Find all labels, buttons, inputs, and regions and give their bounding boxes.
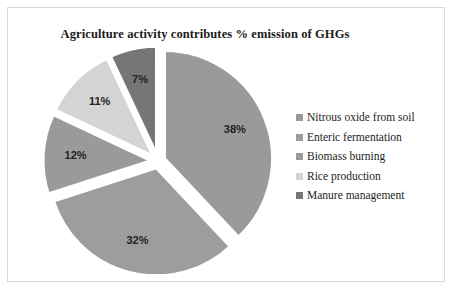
legend-item-label: Biomass burning: [307, 151, 385, 163]
chart-legend: Nitrous oxide from soilEnteric fermentat…: [296, 108, 448, 206]
legend-item[interactable]: Rice production: [296, 167, 448, 187]
legend-item-label: Rice production: [307, 171, 381, 183]
legend-color-swatch-icon: [296, 134, 303, 141]
legend-color-swatch-icon: [296, 192, 303, 199]
pie-chart-plot-area: 38%32%12%11%7%: [32, 48, 284, 274]
legend-item-label: Enteric fermentation: [307, 132, 402, 144]
legend-item[interactable]: Biomass burning: [296, 147, 448, 167]
pie-data-label: 11%: [89, 95, 111, 107]
legend-item[interactable]: Nitrous oxide from soil: [296, 108, 448, 128]
pie-slice-group: [43, 48, 272, 274]
pie-data-label: 32%: [126, 234, 148, 246]
pie-data-label: 12%: [65, 149, 87, 161]
legend-color-swatch-icon: [296, 153, 303, 160]
legend-item-label: Nitrous oxide from soil: [307, 112, 415, 124]
chart-title: Agriculture activity contributes % emiss…: [40, 27, 370, 42]
legend-color-swatch-icon: [296, 114, 303, 121]
legend-color-swatch-icon: [296, 173, 303, 180]
legend-item[interactable]: Enteric fermentation: [296, 128, 448, 148]
pie-data-label: 7%: [132, 73, 148, 85]
pie-data-label: 38%: [224, 123, 246, 135]
legend-item[interactable]: Manure management: [296, 186, 448, 206]
chart-screenshot: Agriculture activity contributes % emiss…: [0, 0, 454, 291]
legend-item-label: Manure management: [307, 190, 404, 202]
pie-chart-svg: 38%32%12%11%7%: [32, 48, 284, 274]
